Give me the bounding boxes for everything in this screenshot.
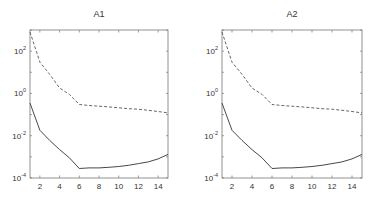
y-tick-label: 102 [14,45,26,56]
x-tick-label: 4 [250,182,255,191]
y-axis: 10210010-210-4 [204,30,362,183]
series-solid-line [30,103,168,168]
y-axis: 10210010-210-4 [12,30,168,183]
x-tick-label: 12 [328,182,337,191]
x-tick-label: 2 [230,182,235,191]
chart-title: A1 [93,9,104,19]
plot-frame [222,30,362,178]
series-dashed-line [222,32,362,113]
y-tick-label: 102 [206,45,218,56]
panel-a1: A1246810121410210010-210-4 [12,9,168,191]
x-axis: 2468101214 [38,30,164,191]
y-tick-label: 10-4 [12,172,26,183]
chart-title: A2 [286,9,297,19]
plot-frame [30,30,168,178]
x-tick-label: 8 [290,182,295,191]
x-tick-label: 6 [77,182,82,191]
series-dashed-line [30,32,168,113]
panel-a2: A2246810121410210010-210-4 [204,9,362,191]
x-tick-label: 10 [308,182,317,191]
series-solid-line [222,103,362,168]
y-tick-label: 10-4 [204,172,218,183]
x-tick-label: 12 [134,182,143,191]
x-tick-label: 10 [114,182,123,191]
x-tick-label: 4 [57,182,62,191]
y-tick-label: 10-2 [204,130,218,141]
x-axis: 2468101214 [230,30,357,191]
x-tick-label: 6 [270,182,275,191]
y-tick-label: 100 [14,87,26,98]
x-tick-label: 8 [97,182,102,191]
figure: A1246810121410210010-210-4A2246810121410… [0,0,375,199]
x-tick-label: 2 [38,182,43,191]
x-tick-label: 14 [348,182,357,191]
y-tick-label: 10-2 [12,130,26,141]
x-tick-label: 14 [154,182,163,191]
y-tick-label: 100 [206,87,218,98]
